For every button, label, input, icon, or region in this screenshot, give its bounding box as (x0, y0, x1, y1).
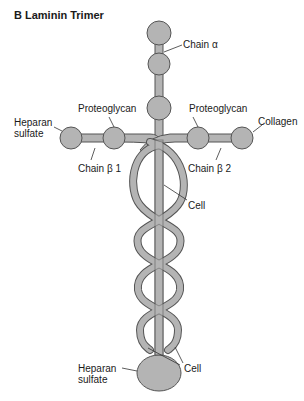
leader-cell-lower-2 (175, 347, 183, 363)
beta2-globule-inner (187, 127, 209, 149)
beta1-globule-inner (103, 127, 125, 149)
alpha-globule-3 (147, 96, 171, 120)
label-heparan-top: Heparan sulfate (14, 117, 52, 139)
beta2-globule-outer (231, 127, 253, 149)
laminin-trimer-diagram (0, 0, 304, 401)
label-chain-alpha: Chain α (183, 39, 218, 50)
leader-chain-beta2 (216, 148, 221, 160)
label-proteoglycan-right: Proteoglycan (189, 103, 247, 114)
leader-chain-alpha (164, 45, 182, 52)
alpha-globule-1 (147, 21, 171, 45)
label-heparan-bottom: Heparan sulfate (78, 363, 116, 385)
leader-chain-beta1 (91, 148, 95, 160)
label-chain-beta1: Chain β 1 (78, 163, 121, 174)
label-cell-upper: Cell (188, 200, 205, 211)
alpha-globule-2 (148, 53, 170, 75)
leader-proteoglycan-right (193, 117, 198, 127)
label-proteoglycan-left: Proteoglycan (78, 103, 136, 114)
beta1-globule-outer (60, 127, 82, 149)
leader-heparan-top (54, 127, 62, 131)
label-cell-lower: Cell (184, 363, 201, 374)
leader-heparan-bottom (122, 368, 137, 371)
label-collagen: Collagen (258, 116, 297, 127)
leader-proteoglycan-left (109, 117, 114, 127)
label-chain-beta2: Chain β 2 (188, 163, 231, 174)
heparan-sulfate-globule (137, 355, 181, 391)
